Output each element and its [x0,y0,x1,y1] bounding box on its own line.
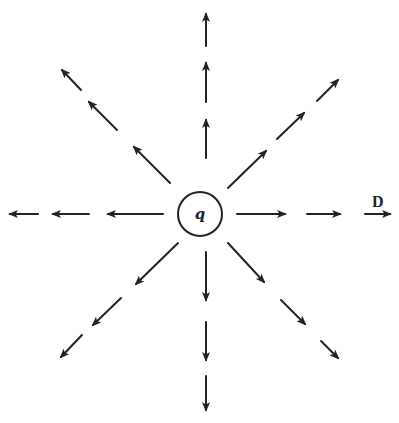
field-ray-up-right [228,80,338,188]
arrow-icon [317,80,338,101]
point-charge-field-diagram: q D [0,0,399,423]
field-ray-down-left [61,243,178,357]
arrow-icon [321,341,338,358]
arrow-icon [89,102,117,130]
arrow-icon [228,243,264,282]
arrow-icon [136,243,178,284]
arrow-icon [61,335,82,357]
arrow-icon [277,113,304,139]
arrow-icon [62,70,81,90]
arrow-icon [134,147,170,183]
field-ray-down-right [228,243,338,358]
field-ray-up-left [62,70,170,183]
field-label-D: D [372,193,384,210]
arrow-icon [281,300,305,324]
arrow-icon [93,298,121,325]
charge-label: q [195,205,206,223]
arrow-icon [228,151,266,188]
